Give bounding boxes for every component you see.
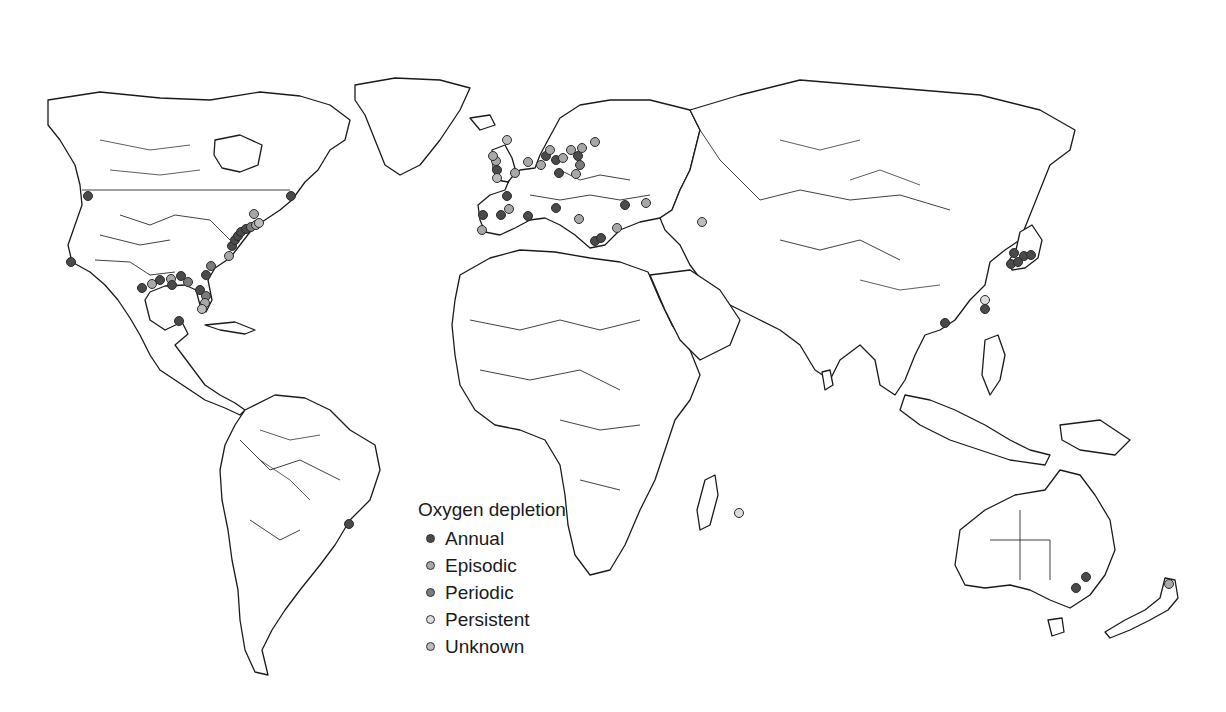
legend: Oxygen depletion Annual Episodic Periodi… [418, 499, 566, 660]
australia [955, 470, 1115, 608]
legend-label: Unknown [445, 636, 524, 658]
site-marker-episodic [489, 152, 498, 161]
north-america [48, 92, 350, 415]
site-marker-unknown [198, 305, 207, 314]
site-marker-annual [552, 204, 561, 213]
site-marker-annual [168, 281, 177, 290]
site-marker-annual [156, 276, 165, 285]
site-marker-annual [503, 192, 512, 201]
philippines [982, 335, 1005, 395]
site-marker-annual [524, 212, 533, 221]
site-marker-episodic [575, 215, 584, 224]
site-marker-periodic [207, 262, 216, 271]
site-marker-episodic [546, 146, 555, 155]
site-marker-persistent [735, 509, 744, 518]
site-marker-annual [497, 211, 506, 220]
site-marker-annual [345, 520, 354, 529]
annual-marker-icon [426, 534, 435, 543]
site-marker-annual [1027, 251, 1036, 260]
site-marker-episodic [537, 161, 546, 170]
site-marker-episodic [572, 170, 581, 179]
site-marker-episodic [1165, 580, 1174, 589]
site-marker-annual [1010, 249, 1019, 258]
site-marker-episodic [642, 199, 651, 208]
site-marker-unknown [503, 136, 512, 145]
world-map [0, 0, 1226, 712]
site-marker-unknown [698, 218, 707, 227]
site-marker-periodic [184, 278, 193, 287]
site-marker-periodic [576, 161, 585, 170]
site-marker-annual [84, 192, 93, 201]
legend-title: Oxygen depletion [418, 499, 566, 521]
periodic-marker-icon [426, 588, 435, 597]
site-marker-annual [621, 201, 630, 210]
site-marker-episodic [578, 144, 587, 153]
legend-item-episodic: Episodic [418, 552, 566, 579]
site-marker-persistent [981, 296, 990, 305]
new-guinea [1060, 420, 1130, 455]
site-marker-annual [597, 234, 606, 243]
site-marker-annual [479, 211, 488, 220]
site-marker-episodic [478, 226, 487, 235]
site-marker-annual [287, 192, 296, 201]
cuba [205, 322, 255, 334]
site-marker-episodic [591, 138, 600, 147]
site-marker-annual [941, 319, 950, 328]
madagascar [697, 475, 718, 530]
tasmania [1048, 618, 1064, 636]
south-america [220, 395, 380, 675]
legend-label: Episodic [445, 555, 517, 577]
legend-item-persistent: Persistent [418, 606, 566, 633]
legend-item-annual: Annual [418, 525, 566, 552]
site-marker-annual [67, 258, 76, 267]
legend-item-unknown: Unknown [418, 633, 566, 660]
legend-label: Periodic [445, 582, 514, 604]
site-marker-annual [1082, 573, 1091, 582]
site-marker-episodic [250, 210, 259, 219]
iceland [470, 115, 495, 130]
unknown-marker-icon [426, 642, 435, 651]
site-marker-episodic [559, 154, 568, 163]
site-marker-episodic [511, 169, 520, 178]
site-marker-unknown [493, 174, 502, 183]
site-marker-annual [138, 284, 147, 293]
landmasses [48, 78, 1178, 675]
site-marker-annual [175, 317, 184, 326]
indonesia [900, 395, 1050, 465]
episodic-marker-icon [426, 561, 435, 570]
persistent-marker-icon [426, 615, 435, 624]
site-marker-unknown [255, 219, 264, 228]
site-marker-annual [981, 305, 990, 314]
site-marker-annual [202, 271, 211, 280]
site-marker-episodic [505, 205, 514, 214]
site-marker-annual [1014, 258, 1023, 267]
legend-label: Annual [445, 528, 504, 550]
site-marker-episodic [524, 158, 533, 167]
site-marker-annual [1072, 584, 1081, 593]
legend-item-periodic: Periodic [418, 579, 566, 606]
legend-label: Persistent [445, 609, 529, 631]
site-marker-episodic [613, 224, 622, 233]
site-marker-annual [555, 169, 564, 178]
site-marker-episodic [225, 252, 234, 261]
greenland [355, 78, 470, 175]
